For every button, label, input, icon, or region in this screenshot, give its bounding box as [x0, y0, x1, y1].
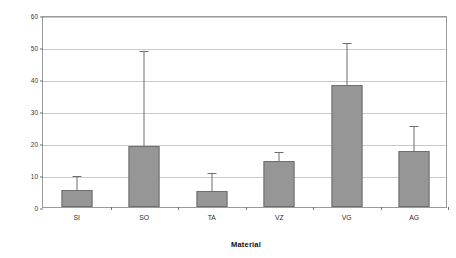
x-tick-label: TA — [208, 215, 216, 222]
y-tick-label: 20 — [31, 142, 38, 149]
error-bar-stem — [211, 174, 212, 191]
bar — [331, 85, 362, 207]
bar — [264, 161, 295, 207]
error-bar-cap — [410, 126, 419, 127]
y-tick-label: 0 — [34, 206, 38, 213]
y-tick-label: 30 — [31, 110, 38, 117]
error-bar-cap — [275, 152, 284, 153]
x-tick-mark — [246, 207, 247, 210]
x-tick-label: VZ — [275, 215, 284, 222]
x-axis-title: Material — [42, 240, 450, 249]
x-tick-label: SI — [74, 215, 80, 222]
x-tick-label: VG — [342, 215, 352, 222]
x-tick-label: SO — [139, 215, 149, 222]
error-bar-cap — [207, 173, 216, 174]
y-tick-label: 10 — [31, 174, 38, 181]
x-tick-mark — [111, 207, 112, 210]
bar — [61, 190, 92, 207]
error-bar-cap — [72, 176, 81, 177]
error-bar-stem — [76, 177, 77, 190]
x-tick-mark — [313, 207, 314, 210]
error-bar-cap — [140, 51, 149, 52]
plot-area: 0102030405060 SISOTAVZVGAG — [42, 16, 447, 208]
bar-group — [43, 17, 111, 207]
error-bar-stem — [144, 52, 145, 146]
error-bar-stem — [414, 127, 415, 151]
bar-group — [246, 17, 314, 207]
bar — [196, 191, 227, 207]
error-bar-stem — [346, 44, 347, 86]
bar — [129, 146, 160, 207]
error-bar-stem — [279, 153, 280, 161]
bar-chart: Percentage (%) 0102030405060 SISOTAVZVGA… — [0, 0, 456, 258]
y-tick-mark — [40, 209, 43, 210]
x-tick-label: AG — [409, 215, 419, 222]
bar-group — [313, 17, 381, 207]
bar-group — [381, 17, 449, 207]
error-bar-cap — [342, 43, 351, 44]
bars-layer — [43, 17, 446, 207]
x-tick-mark — [381, 207, 382, 210]
x-tick-mark — [178, 207, 179, 210]
bar — [399, 151, 430, 207]
y-tick-label: 50 — [31, 46, 38, 53]
y-tick-label: 40 — [31, 78, 38, 85]
x-tick-mark — [448, 207, 449, 210]
bar-group — [178, 17, 246, 207]
y-tick-label: 60 — [31, 14, 38, 21]
bar-group — [111, 17, 179, 207]
